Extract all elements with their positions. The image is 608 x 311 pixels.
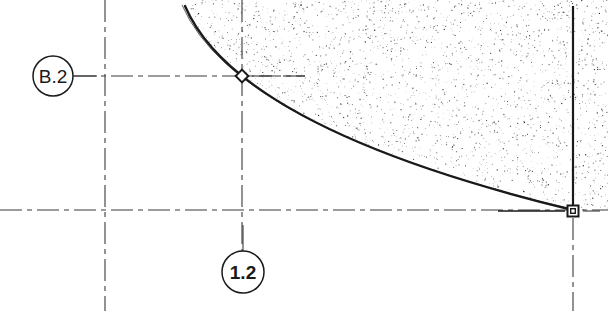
grid-bubble-b2-label: B.2 xyxy=(39,66,68,87)
grip-endpoint-square[interactable] xyxy=(568,206,579,217)
cad-drawing-svg: B.21.2 xyxy=(0,0,608,311)
cad-drawing-canvas[interactable]: B.21.2 xyxy=(0,0,608,311)
grid-bubble-1-2-label: 1.2 xyxy=(230,262,256,283)
